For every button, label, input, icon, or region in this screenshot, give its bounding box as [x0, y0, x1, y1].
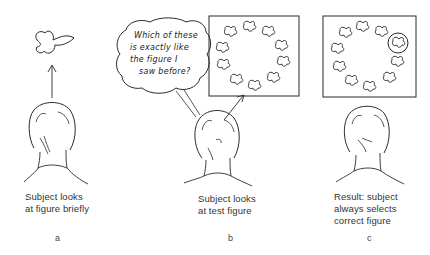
panel-label-c: c — [367, 233, 372, 243]
panel-label-b: b — [228, 233, 233, 243]
caption-b: Subject looks at test figure — [198, 193, 256, 217]
test-figure-box — [209, 16, 299, 96]
thought-bubble-line: is exactly like — [130, 42, 189, 54]
thought-bubble-line: the figure I — [130, 54, 178, 66]
head-b — [195, 111, 239, 159]
caption-a: Subject looks at figure briefly — [25, 191, 89, 215]
caption-line: Subject looks — [25, 191, 89, 203]
caption-line: correct figure — [334, 215, 398, 227]
caption-line: Result: subject — [334, 191, 398, 203]
caption-c: Result: subject always selects correct f… — [334, 191, 398, 227]
caption-line: at figure briefly — [25, 203, 89, 215]
head-c — [344, 106, 389, 153]
panel-a — [24, 31, 88, 184]
result-figure-box — [323, 16, 416, 97]
target-figure — [36, 31, 74, 53]
thought-bubble-line: saw before? — [139, 66, 191, 78]
caption-line: at test figure — [198, 205, 256, 217]
recognition-memory-diagram: Which of these is exactly like the figur… — [0, 0, 430, 255]
panel-c — [323, 16, 416, 184]
head-a — [29, 103, 75, 151]
caption-line: always selects — [334, 203, 398, 215]
caption-line: Subject looks — [198, 193, 256, 205]
thought-bubble-line: Which of these — [134, 30, 198, 42]
panel-label-a: a — [55, 233, 60, 243]
